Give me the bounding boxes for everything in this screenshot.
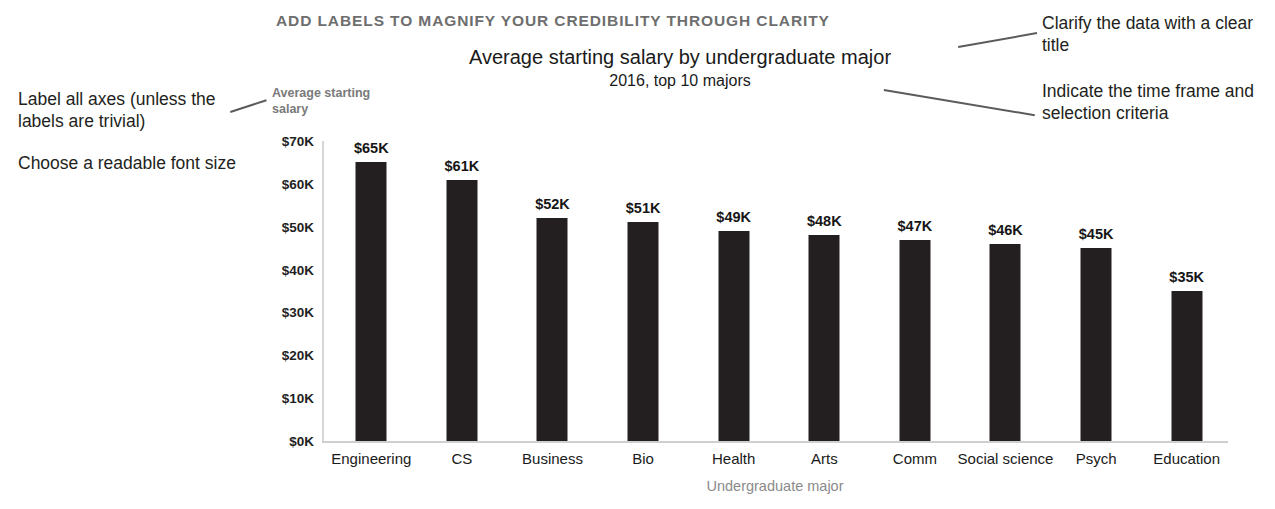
bar-value-label: $47K — [898, 218, 933, 234]
annotation-label-all-axes: Label all axes (unless the labels are tr… — [18, 88, 253, 133]
x-axis-category-label: Health — [712, 450, 755, 467]
x-axis-category-label: Arts — [811, 450, 838, 467]
chart-title: Average starting salary by undergraduate… — [322, 46, 1038, 69]
bar[interactable] — [356, 162, 387, 441]
bar[interactable] — [990, 244, 1021, 441]
x-axis-category-label: Education — [1153, 450, 1220, 467]
bar-value-label: $51K — [626, 200, 661, 216]
slide-headline: ADD LABELS TO MAGNIFY YOUR CREDIBILITY T… — [276, 12, 830, 30]
plot-area: $70K$60K$50K$40K$30K$20K$10K$0K$65KEngin… — [322, 141, 1228, 441]
y-axis-tick-label: $20K — [282, 348, 314, 363]
y-axis-tick-label: $50K — [282, 219, 314, 234]
bar-value-label: $61K — [445, 158, 480, 174]
bar[interactable] — [718, 231, 749, 441]
bar-group[interactable]: $47KComm — [870, 141, 961, 441]
bar-value-label: $35K — [1169, 269, 1204, 285]
bar-value-label: $48K — [807, 213, 842, 229]
y-axis-tick-label: $10K — [282, 391, 314, 406]
bar-group[interactable]: $49KHealth — [688, 141, 779, 441]
bar-group[interactable]: $51KBio — [598, 141, 689, 441]
bar[interactable] — [628, 222, 659, 441]
x-axis-category-label: Engineering — [331, 450, 411, 467]
bar-group[interactable]: $46KSocial science — [960, 141, 1051, 441]
annotation-clear-title: Clarify the data with a clear title — [1042, 12, 1267, 57]
bar-group[interactable]: $48KArts — [779, 141, 870, 441]
x-axis-category-label: Social science — [958, 450, 1054, 467]
bar[interactable] — [446, 180, 477, 441]
chart-subtitle: 2016, top 10 majors — [322, 72, 1038, 90]
bar-group[interactable]: $65KEngineering — [326, 141, 417, 441]
slide-canvas: ADD LABELS TO MAGNIFY YOUR CREDIBILITY T… — [0, 0, 1275, 509]
x-axis-title: Undergraduate major — [322, 478, 1228, 494]
y-axis-tick-label: $0K — [289, 434, 314, 449]
bar-value-label: $65K — [354, 140, 389, 156]
leader-line-subtitle — [884, 89, 1035, 116]
y-axis-tick-label: $60K — [282, 176, 314, 191]
y-axis-tick-label: $70K — [282, 134, 314, 149]
bar-value-label: $52K — [535, 196, 570, 212]
bar-group[interactable]: $45KPsych — [1051, 141, 1142, 441]
bar-group[interactable]: $52KBusiness — [507, 141, 598, 441]
bar-group[interactable]: $35KEducation — [1141, 141, 1232, 441]
bar[interactable] — [1081, 248, 1112, 441]
bar-value-label: $45K — [1079, 226, 1114, 242]
y-axis-tick-label: $40K — [282, 262, 314, 277]
bar[interactable] — [1171, 291, 1202, 441]
x-axis-category-label: Psych — [1076, 450, 1117, 467]
x-axis-category-label: Comm — [893, 450, 937, 467]
y-axis-title: Average starting salary — [272, 86, 392, 117]
x-axis-category-label: Bio — [632, 450, 654, 467]
y-axis-tick-label: $30K — [282, 305, 314, 320]
annotation-time-frame: Indicate the time frame and selection cr… — [1042, 80, 1267, 125]
annotation-readable-font: Choose a readable font size — [18, 152, 253, 174]
bar[interactable] — [899, 240, 930, 441]
bar-group[interactable]: $61KCS — [417, 141, 508, 441]
x-axis-category-label: Business — [522, 450, 583, 467]
x-axis-category-label: CS — [451, 450, 472, 467]
bar[interactable] — [537, 218, 568, 441]
bar-value-label: $46K — [988, 222, 1023, 238]
bar[interactable] — [809, 235, 840, 441]
bar-value-label: $49K — [716, 209, 751, 225]
x-axis-line — [322, 441, 1228, 443]
